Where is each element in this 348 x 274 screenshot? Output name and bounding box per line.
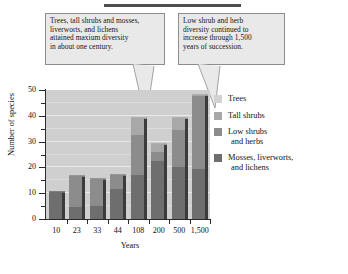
legend-swatch-icon-2 [214, 128, 222, 136]
x-tick-5 [169, 220, 170, 224]
bar-segment-500-2 [172, 118, 185, 130]
legend-label-1: Tall shrubs [228, 111, 346, 121]
bar-side-33 [103, 179, 106, 219]
bar-44[interactable] [110, 90, 123, 219]
y-tick-label-10: 10 [14, 188, 36, 197]
bar-200[interactable] [151, 90, 164, 219]
legend-label-0: Trees [228, 94, 346, 104]
callout-right-line-4: years of succession. [183, 43, 280, 52]
chart-legend: TreesTall shrubsLow shrubsand herbsMosse… [214, 94, 346, 180]
bar-side-44 [123, 175, 126, 219]
bar-segment-10-0 [49, 192, 62, 219]
y-tick-10 [39, 193, 45, 194]
y-axis-line [45, 89, 46, 220]
legend-item-1[interactable]: Tall shrubs [214, 111, 346, 121]
bar-side-1,500 [205, 95, 208, 219]
legend-item-0[interactable]: Trees [214, 94, 346, 104]
legend-label-3-cont: and lichens [231, 163, 346, 173]
bar-108[interactable] [131, 90, 144, 219]
bar-segment-500-0 [172, 167, 185, 219]
legend-item-2[interactable]: Low shrubsand herbs [214, 127, 346, 146]
legend-swatch-icon-3 [214, 154, 222, 162]
legend-label-3: Mosses, liverworts, [228, 153, 346, 163]
bar-33[interactable] [90, 90, 103, 219]
bar-top-44 [110, 174, 126, 176]
y-tick-0 [39, 219, 45, 220]
bar-segment-108-1 [131, 135, 144, 175]
bar-segment-33-0 [90, 206, 103, 219]
y-tick-label-50: 50 [14, 85, 36, 94]
bar-top-10 [49, 191, 65, 193]
bar-segment-23-1 [69, 176, 82, 207]
bar-segment-33-1 [90, 179, 103, 206]
legend-swatch-icon-1 [214, 112, 222, 120]
bar-segment-1,500-0 [192, 169, 205, 219]
y-tick-35 [41, 129, 45, 130]
y-tick-5 [41, 206, 45, 207]
y-tick-label-40: 40 [14, 111, 36, 120]
bar-segment-44-0 [110, 189, 123, 219]
bar-23[interactable] [69, 90, 82, 219]
x-tick-4 [149, 220, 150, 224]
legend-label-2-cont: and herbs [231, 137, 346, 147]
y-tick-40 [39, 116, 45, 117]
bar-segment-200-0 [151, 161, 164, 219]
y-tick-20 [39, 167, 45, 168]
bar-top-33 [90, 178, 106, 180]
x-axis-title: Years [100, 241, 160, 250]
bar-segment-108-2 [131, 118, 144, 135]
callout-right: Low shrub and herb diversity continued t… [178, 13, 285, 65]
x-tick-3 [128, 220, 129, 224]
bar-side-500 [185, 118, 188, 219]
bar-segment-200-1 [151, 152, 164, 161]
chart-figure: Trees, tall shrubs and mosses, liverwort… [0, 0, 348, 274]
legend-item-3[interactable]: Mosses, liverworts,and lichens [214, 153, 346, 172]
bar-side-200 [164, 144, 167, 219]
bar-segment-1,500-1 [192, 96, 205, 168]
bar-segment-108-0 [131, 175, 144, 219]
bar-10[interactable] [49, 90, 62, 219]
callout-left: Trees, tall shrubs and mosses, liverwort… [45, 13, 165, 65]
x-tick-label-1,500: 1,500 [187, 226, 213, 235]
y-tick-30 [39, 142, 45, 143]
y-tick-15 [41, 180, 45, 181]
bar-side-10 [62, 192, 65, 219]
x-tick-0 [67, 220, 68, 224]
bar-side-108 [144, 118, 147, 219]
bar-segment-44-1 [110, 175, 123, 189]
y-tick-50 [39, 90, 45, 91]
bar-1,500[interactable] [192, 90, 205, 219]
y-tick-label-0: 0 [14, 214, 36, 223]
bar-top-200 [151, 143, 167, 145]
bar-top-23 [69, 175, 85, 177]
x-tick-6 [190, 220, 191, 224]
y-tick-label-20: 20 [14, 162, 36, 171]
bar-top-1,500 [192, 94, 208, 96]
bar-side-23 [82, 176, 85, 219]
y-tick-25 [41, 155, 45, 156]
y-axis-title: Number of species [7, 80, 16, 170]
bar-top-500 [172, 117, 188, 119]
bar-segment-23-0 [69, 207, 82, 219]
callout-left-line-4: in about one century. [50, 43, 160, 52]
bar-segment-200-2 [151, 144, 164, 152]
x-tick-7 [210, 220, 211, 224]
bar-top-108 [131, 117, 147, 119]
x-tick-2 [108, 220, 109, 224]
y-tick-45 [41, 103, 45, 104]
bar-500[interactable] [172, 90, 185, 219]
legend-swatch-icon-0 [214, 95, 222, 103]
y-tick-label-30: 30 [14, 137, 36, 146]
x-tick-1 [87, 220, 88, 224]
legend-label-2: Low shrubs [228, 127, 346, 137]
header-rule [104, 4, 241, 7]
bar-segment-500-1 [172, 130, 185, 167]
